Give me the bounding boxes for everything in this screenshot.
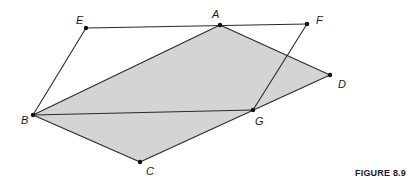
point-f-dot [305,22,309,26]
segment-ef [86,24,307,28]
point-a-dot [218,23,222,27]
point-d-label: D [338,78,346,90]
point-f-label: F [316,14,324,26]
point-b-dot [31,113,35,117]
figure-caption: FIGURE 8.9 [355,168,406,178]
point-e-dot [84,26,88,30]
geometry-figure: ABCDEFG [0,0,407,188]
point-a-label: A [211,8,219,20]
point-c-label: C [146,165,154,177]
point-c-dot [138,160,142,164]
point-e-label: E [76,14,84,26]
point-g-dot [251,108,255,112]
point-b-label: B [21,114,28,126]
point-d-dot [328,73,332,77]
point-g-label: G [255,115,264,127]
